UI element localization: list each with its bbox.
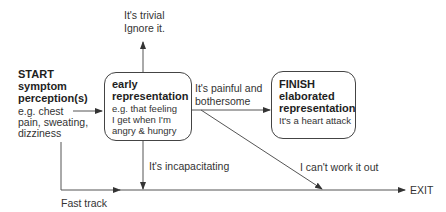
label-fast-track: Fast track bbox=[61, 197, 107, 209]
label-trivial-1: It's trivial bbox=[124, 9, 165, 21]
finish-title-2: elaborated bbox=[279, 90, 335, 102]
early-representation-box: early representation e.g. that feeling I… bbox=[104, 72, 192, 141]
finish-example: It's a heart attack bbox=[279, 115, 351, 127]
start-example-3: dizziness bbox=[18, 127, 61, 139]
label-incapacitating: It's incapacitating bbox=[149, 160, 229, 172]
early-title-2: representation bbox=[112, 90, 188, 102]
start-subtitle-2: perception(s) bbox=[18, 92, 88, 104]
start-subtitle-1: symptom bbox=[18, 80, 67, 92]
label-cant-work-out: I can't work it out bbox=[300, 161, 378, 173]
start-title: START bbox=[18, 68, 54, 80]
finish-title-1: FINISH bbox=[279, 78, 315, 90]
finish-title-3: representation bbox=[279, 102, 355, 114]
label-exit: EXIT bbox=[410, 184, 433, 196]
label-painful-1: It's painful and bbox=[195, 82, 262, 94]
early-example-3: angry & hungry bbox=[112, 125, 176, 137]
label-trivial-2: Ignore it. bbox=[124, 22, 165, 34]
early-title-1: early bbox=[112, 78, 138, 90]
label-painful-2: bothersome bbox=[195, 95, 250, 107]
finish-box: FINISH elaborated representation It's a … bbox=[271, 71, 356, 139]
